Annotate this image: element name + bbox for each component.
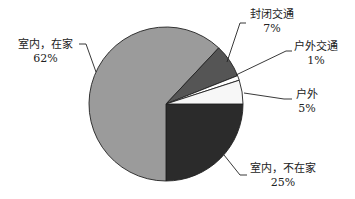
label-outdoor-value: 5% <box>296 102 318 116</box>
pie-slices <box>89 27 243 181</box>
label-closed-transport: 封闭交通 7% <box>250 8 294 36</box>
label-outdoor-name: 户外 <box>296 88 318 102</box>
label-indoor-not-home: 室内，不在家 25% <box>250 162 316 190</box>
label-outdoor-transport-name: 户外交通 <box>294 40 338 54</box>
label-indoor-home: 室内，在家 62% <box>18 38 73 66</box>
label-indoor-home-value: 62% <box>18 52 73 66</box>
label-outdoor: 户外 5% <box>296 88 318 116</box>
label-outdoor-transport: 户外交通 1% <box>294 40 338 68</box>
pie-slice <box>166 104 243 181</box>
label-indoor-home-name: 室内，在家 <box>18 38 73 52</box>
leader-line-outdoor <box>244 93 292 99</box>
leader-line-outdoor-transport <box>236 51 292 75</box>
leader-line-indoor-not-home <box>224 155 247 175</box>
label-closed-transport-name: 封闭交通 <box>250 8 294 22</box>
label-indoor-not-home-name: 室内，不在家 <box>250 162 316 176</box>
leader-line-indoor-home <box>79 44 96 72</box>
label-closed-transport-value: 7% <box>250 22 294 36</box>
label-outdoor-transport-value: 1% <box>294 54 338 68</box>
label-indoor-not-home-value: 25% <box>250 176 316 190</box>
leader-line-closed-transport <box>227 23 246 62</box>
